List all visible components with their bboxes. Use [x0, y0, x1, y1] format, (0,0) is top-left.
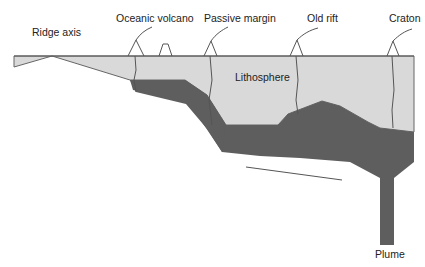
label-lithosphere: Lithosphere [235, 71, 290, 83]
ridge-left-wedge [14, 56, 52, 67]
plate-motion-line [246, 167, 342, 180]
label-craton: Craton [389, 12, 421, 24]
label-passive-margin: Passive margin [204, 12, 276, 24]
label-ridge-axis: Ridge axis [32, 26, 81, 38]
label-oceanic-volcano: Oceanic volcano [116, 12, 194, 24]
label-old-rift: Old rift [307, 12, 338, 24]
label-plume: Plume [375, 248, 405, 260]
lithosphere-plume-diagram: Ridge axis Oceanic volcano Passive margi… [0, 0, 425, 267]
seamount-icon [159, 44, 172, 56]
